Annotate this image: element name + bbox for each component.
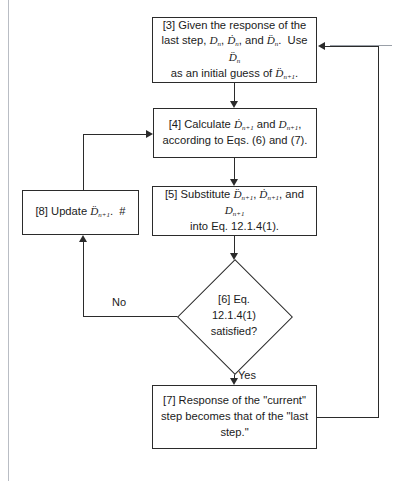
process-node-step-4-label: [4] Calculate Ḋn+1 and Dn+1,according to… <box>157 117 314 149</box>
connector-box5-to-diamond <box>234 236 235 253</box>
process-node-step-5-label: [5] Substitute D̈n+1, Ḋn+1, and Dn+1into… <box>153 187 316 236</box>
arrowhead-feedback-into-box3 <box>318 42 325 50</box>
arrowhead-yes-to-box7 <box>230 378 238 385</box>
process-node-step-3[interactable]: [3] Given the response of thelast step, … <box>152 17 317 83</box>
connector-box8-to-box4-horizontal <box>83 134 146 135</box>
process-node-step-8-label: [8] Update D̈n+1. # <box>30 204 132 220</box>
connector-box4-to-box5 <box>234 158 235 179</box>
process-node-step-8[interactable]: [8] Update D̈n+1. # <box>22 190 139 235</box>
connector-box7-to-box3-vertical <box>378 46 379 418</box>
process-node-step-3-label: [3] Given the response of thelast step, … <box>153 18 316 83</box>
process-node-step-7[interactable]: [7] Response of the "current" step becom… <box>152 385 317 449</box>
process-node-step-4[interactable]: [4] Calculate Ḋn+1 and Dn+1,according to… <box>153 108 317 158</box>
arrowhead-box4-to-box5 <box>230 179 238 186</box>
process-node-step-7-label: [7] Response of the "current" step becom… <box>153 393 316 441</box>
arrowhead-box3-to-box4 <box>230 101 238 108</box>
connector-box8-to-box4-vertical <box>83 134 84 190</box>
connector-no-branch-vertical <box>83 242 84 316</box>
decision-node-step-6[interactable]: [6] Eq. 12.1.4(1) satisfied? <box>177 259 291 373</box>
connector-feedback-top-horizontal <box>325 46 379 47</box>
arrowhead-box8-to-box4 <box>146 130 153 138</box>
decision-node-step-6-label: [6] Eq. 12.1.4(1) satisfied? <box>177 259 291 373</box>
connector-box3-to-box4 <box>234 83 235 101</box>
flowchart-canvas: No Yes [3] Given the response of thelast… <box>0 0 401 481</box>
page-frame-left-border <box>8 0 9 481</box>
arrowhead-into-box8 <box>79 235 87 242</box>
edge-label-no: No <box>112 296 126 308</box>
process-node-step-5[interactable]: [5] Substitute D̈n+1, Ḋn+1, and Dn+1into… <box>152 186 317 236</box>
connector-box7-to-box3-horizontal <box>317 417 379 418</box>
